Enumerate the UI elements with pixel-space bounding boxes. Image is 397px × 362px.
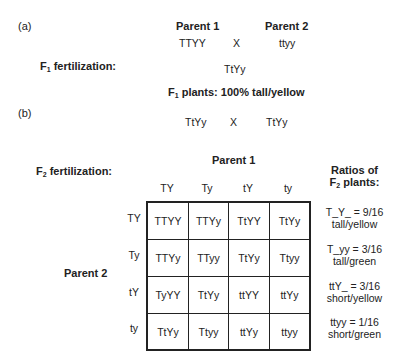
punnett-cell: ttyy xyxy=(270,314,309,349)
cross-right-genotype: TtYy xyxy=(266,116,288,128)
row-header: TY xyxy=(124,212,144,224)
ratios-title: Ratios of F2 plants: xyxy=(312,164,397,188)
punnett-cell: TtYy xyxy=(229,240,270,277)
parent2-title: Parent 2 xyxy=(265,20,308,32)
ratio-entry: T_yy = 3/16 tall/green xyxy=(312,243,397,267)
punnett-cell: TTYy xyxy=(148,240,189,277)
ratio-entry: ttY_ = 3/16 short/yellow xyxy=(312,280,397,304)
ratio-formula: T_Y_ = 9/16 xyxy=(312,206,397,218)
punnett-cell: ttYy xyxy=(270,277,309,314)
ratio-phenotype: short/yellow xyxy=(312,292,397,304)
part-a-label: (a) xyxy=(18,20,31,32)
f2-f: F xyxy=(36,165,43,177)
punnett-cell: TTyy xyxy=(189,240,229,277)
parent1-genotype: TTYY xyxy=(179,37,206,49)
f1-f: F xyxy=(40,60,47,72)
ratios-title-line1: Ratios of xyxy=(312,164,397,176)
punnett-cell: TTYy xyxy=(189,203,229,240)
f2-text: fertilization: xyxy=(47,165,112,177)
parent1-title: Parent 1 xyxy=(176,20,219,32)
col-header: TY xyxy=(147,182,187,194)
f1-fertilization-label: F1 fertilization: xyxy=(40,60,116,72)
row-header: tY xyxy=(124,286,144,298)
punnett-cell: TtYY xyxy=(229,203,270,240)
f2-fertilization-label: F2 fertilization: xyxy=(36,165,112,177)
f1p-f: F xyxy=(168,86,175,98)
ratio-phenotype: tall/yellow xyxy=(312,218,397,230)
cross-left-genotype: TtYy xyxy=(185,116,207,128)
punnett-cell: TtYy xyxy=(189,277,229,314)
ratio-phenotype: short/green xyxy=(312,328,397,340)
f1p-text: plants: 100% tall/yellow xyxy=(179,86,305,98)
punnett-square: TTYY TTYy TtYY TtYy TTYy TTyy TtYy Ttyy … xyxy=(146,201,311,351)
punnett-parent1-title: Parent 1 xyxy=(212,154,255,166)
cross-symbol: X xyxy=(233,37,240,49)
punnett-cell: Ttyy xyxy=(270,240,309,277)
ratio-entry: ttyy = 1/16 short/green xyxy=(312,316,397,340)
col-header: ty xyxy=(268,182,308,194)
ratios-title-line2: F2 plants: xyxy=(312,176,397,188)
part-b-label: (b) xyxy=(18,107,31,119)
ratio-phenotype: tall/green xyxy=(312,255,397,267)
punnett-cell: ttYY xyxy=(229,277,270,314)
punnett-cell: ttYy xyxy=(229,314,270,349)
punnett-cell: TyYY xyxy=(148,277,189,314)
row-header: Ty xyxy=(124,249,144,261)
parent2-genotype: ttyy xyxy=(279,37,295,49)
col-header: Ty xyxy=(187,182,227,194)
punnett-cell: TTYY xyxy=(148,203,189,240)
ratio-entry: T_Y_ = 9/16 tall/yellow xyxy=(312,206,397,230)
cross-symbol-b: X xyxy=(230,116,237,128)
f1-plants-result: F1 plants: 100% tall/yellow xyxy=(168,86,305,98)
punnett-cell: TtYy xyxy=(270,203,309,240)
ratio-formula: T_yy = 3/16 xyxy=(312,243,397,255)
punnett-cell: Ttyy xyxy=(189,314,229,349)
punnett-parent2-title: Parent 2 xyxy=(64,267,107,279)
f1-fert-text: fertilization: xyxy=(51,60,116,72)
ratio-formula: ttY_ = 3/16 xyxy=(312,280,397,292)
col-header: tY xyxy=(228,182,268,194)
f1-genotype: TtYy xyxy=(224,63,246,75)
row-header: ty xyxy=(124,322,144,334)
rt-text: plants: xyxy=(340,176,379,188)
ratio-formula: ttyy = 1/16 xyxy=(312,316,397,328)
punnett-cell: TtYy xyxy=(148,314,189,349)
